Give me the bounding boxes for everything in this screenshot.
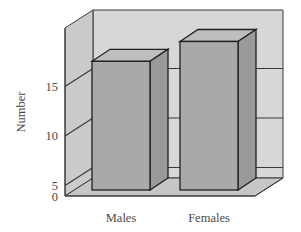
bar-males[interactable] xyxy=(92,49,168,190)
bar-females-front xyxy=(180,42,238,191)
plot-area-3d xyxy=(65,10,283,196)
category-label-males: Males xyxy=(106,211,137,225)
chart-page: 15 10 5 0 Number Males Females xyxy=(0,0,301,232)
bar-males-side xyxy=(150,49,168,190)
ytick-label-10: 10 xyxy=(46,129,59,143)
bar-females-side xyxy=(238,30,256,191)
ytick-label-0: 0 xyxy=(52,190,58,204)
bar-males-front xyxy=(92,61,150,190)
bar-females[interactable] xyxy=(180,30,256,191)
y-axis-title: Number xyxy=(14,91,28,133)
bar-chart-3d: 15 10 5 0 Number Males Females xyxy=(0,0,301,232)
left-wall xyxy=(65,10,93,196)
category-label-females: Females xyxy=(188,211,230,225)
ytick-label-15: 15 xyxy=(46,80,59,94)
